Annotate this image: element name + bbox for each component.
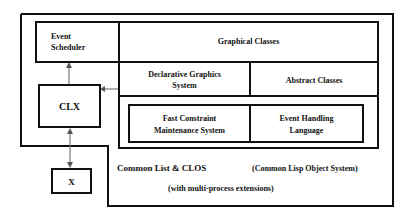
base-label: Common List & CLOS [117, 163, 206, 174]
base-sublabel: (with multi-process extensions) [168, 183, 274, 194]
abstract-classes-label: Abstract Classes [251, 75, 377, 86]
event-handling-label-2: Language [251, 125, 362, 136]
event-scheduler-label-2: Scheduler [51, 42, 85, 53]
declarative-graphics-box: Declarative Graphics System [118, 61, 251, 97]
clx-label: CLX [40, 101, 99, 112]
fast-constraint-label-1: Fast Constraint [130, 113, 249, 124]
declarative-label-1: Declarative Graphics [120, 69, 249, 80]
declarative-label-2: System [120, 80, 249, 91]
fast-constraint-label-2: Maintenance System [130, 125, 249, 136]
graphical-classes-label: Graphical Classes [120, 36, 377, 47]
event-scheduler-label-1: Event [51, 31, 71, 42]
event-scheduler-box: Event Scheduler [35, 21, 120, 63]
fast-constraint-box: Fast Constraint Maintenance System [128, 104, 251, 143]
base-note: (Common Lisp Object System) [252, 163, 358, 174]
x-label: X [53, 177, 90, 188]
clx-box: CLX [38, 84, 101, 128]
x-box: X [51, 168, 92, 194]
event-handling-box: Event Handling Language [249, 104, 364, 143]
graphical-classes-box: Graphical Classes [118, 21, 379, 63]
event-handling-label-1: Event Handling [251, 113, 362, 124]
abstract-classes-box: Abstract Classes [249, 61, 379, 97]
